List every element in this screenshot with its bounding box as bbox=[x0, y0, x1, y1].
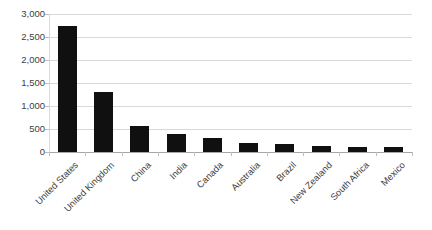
x-category-label: Mexico bbox=[379, 160, 407, 188]
x-category-label: South Africa bbox=[328, 160, 371, 203]
y-tick-mark bbox=[45, 106, 49, 107]
bar bbox=[348, 147, 367, 152]
x-tick-mark bbox=[49, 152, 50, 156]
y-tick-mark bbox=[45, 60, 49, 61]
x-category-label: Australia bbox=[229, 160, 262, 193]
bar bbox=[94, 92, 113, 152]
x-tick-mark bbox=[339, 152, 340, 156]
x-category-label: Brazil bbox=[274, 160, 298, 184]
y-tick-label: 2,500 bbox=[1, 32, 45, 42]
x-tick-mark bbox=[158, 152, 159, 156]
bar bbox=[239, 143, 258, 152]
x-tick-mark bbox=[122, 152, 123, 156]
y-tick-label: 1,500 bbox=[1, 78, 45, 88]
y-tick-mark bbox=[45, 83, 49, 84]
bar bbox=[312, 146, 331, 152]
x-tick-mark bbox=[231, 152, 232, 156]
y-tick-label: 0 bbox=[1, 147, 45, 157]
x-tick-mark bbox=[376, 152, 377, 156]
y-tick-label: 3,000 bbox=[1, 9, 45, 19]
x-tick-mark bbox=[267, 152, 268, 156]
y-tick-mark bbox=[45, 129, 49, 130]
y-axis-tick-labels: 05001,0001,5002,0002,5003,000 bbox=[0, 14, 45, 152]
bar bbox=[275, 144, 294, 152]
y-tick-label: 500 bbox=[1, 124, 45, 134]
x-tick-mark bbox=[412, 152, 413, 156]
bar bbox=[203, 138, 222, 152]
x-category-label: India bbox=[168, 160, 189, 181]
y-tick-mark bbox=[45, 14, 49, 15]
x-category-label: China bbox=[129, 160, 153, 184]
y-tick-label: 2,000 bbox=[1, 55, 45, 65]
bar bbox=[58, 26, 77, 153]
bar bbox=[130, 126, 149, 152]
x-category-label: Canada bbox=[195, 160, 225, 190]
bars-layer bbox=[49, 14, 412, 152]
x-tick-mark bbox=[194, 152, 195, 156]
y-tick-mark bbox=[45, 37, 49, 38]
y-tick-label: 1,000 bbox=[1, 101, 45, 111]
bar-chart: 05001,0001,5002,0002,5003,000 United Sta… bbox=[0, 0, 432, 230]
bar bbox=[167, 134, 186, 152]
x-tick-mark bbox=[303, 152, 304, 156]
x-tick-mark bbox=[85, 152, 86, 156]
bar bbox=[384, 147, 403, 152]
